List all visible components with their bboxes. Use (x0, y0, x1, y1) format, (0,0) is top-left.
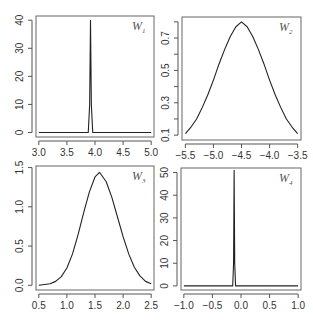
x-tick-label: 1.0 (60, 300, 74, 311)
density-curve (185, 22, 297, 134)
x-tick-label: 2.5 (144, 300, 158, 311)
y-tick-label: 0.7 (160, 31, 171, 45)
density-curve (39, 172, 151, 285)
x-tick-label: −1.0 (174, 300, 194, 311)
y-tick-label: 40 (159, 189, 170, 201)
panel-w2: −5.5−5.0−4.5−4.0−3.50.10.30.50.7W2 (160, 17, 308, 161)
y-tick-label: 0.3 (160, 95, 171, 109)
x-tick-label: 4.5 (116, 147, 130, 158)
y-tick-label: 0.5 (160, 63, 171, 77)
panel-label: W1 (132, 19, 146, 35)
y-tick-label: 50 (159, 167, 170, 179)
x-tick-label: −0.5 (203, 300, 223, 311)
x-tick-label: 5.0 (144, 147, 158, 158)
plot-frame (36, 16, 154, 137)
x-tick-label: 3.5 (60, 147, 74, 158)
y-tick-label: 0.1 (160, 128, 171, 142)
y-tick-label: 10 (14, 98, 25, 110)
y-tick-label: 30 (159, 212, 170, 224)
panel-label: W2 (279, 20, 293, 36)
y-tick-label: 0.0 (14, 278, 25, 292)
y-tick-label: 40 (14, 14, 25, 26)
y-tick-label: 0.5 (14, 239, 25, 253)
x-tick-label: −4.5 (232, 150, 252, 161)
density-curve (184, 170, 298, 286)
y-tick-label: 20 (14, 70, 25, 82)
x-tick-label: 3.0 (32, 147, 46, 158)
x-tick-label: 2.0 (116, 300, 130, 311)
plot-frame (182, 17, 301, 140)
plot-frame (36, 166, 154, 290)
x-tick-label: −5.5 (175, 150, 195, 161)
x-tick-label: −3.5 (288, 150, 308, 161)
y-tick-label: 0 (159, 283, 170, 289)
x-tick-label: 0.0 (234, 300, 248, 311)
panel-w3: 0.51.01.52.02.50.00.51.01.5W3 (14, 160, 159, 311)
y-tick-label: 0 (14, 129, 25, 135)
y-tick-label: 10 (159, 257, 170, 269)
x-tick-label: 1.5 (88, 300, 102, 311)
plot-frame (181, 168, 301, 290)
x-tick-label: −5.0 (204, 150, 224, 161)
y-tick-label: 1.5 (14, 160, 25, 174)
figure: 3.03.54.04.55.0010203040W1 −5.5−5.0−4.5−… (0, 0, 313, 325)
x-tick-label: 4.0 (88, 147, 102, 158)
density-curve (39, 20, 151, 132)
y-tick-label: 20 (159, 235, 170, 247)
x-tick-label: −4.0 (260, 150, 280, 161)
panel-label: W4 (279, 171, 293, 187)
panel-w1: 3.03.54.04.55.0010203040W1 (14, 14, 159, 158)
density-plots-grid: 3.03.54.04.55.0010203040W1 −5.5−5.0−4.5−… (0, 0, 313, 325)
x-tick-label: 1.0 (291, 300, 305, 311)
y-tick-label: 1.0 (14, 199, 25, 213)
x-tick-label: 0.5 (263, 300, 277, 311)
panel-w4: −1.0−0.50.00.51.001020304050W4 (159, 167, 306, 311)
x-tick-label: 0.5 (32, 300, 46, 311)
y-tick-label: 30 (14, 42, 25, 54)
panel-label: W3 (132, 169, 146, 185)
